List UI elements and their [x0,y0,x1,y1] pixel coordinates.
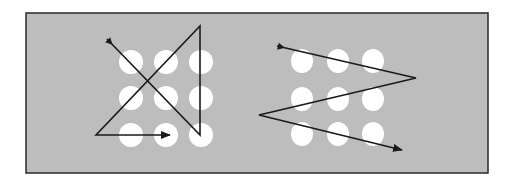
grid-dot [189,50,213,74]
diagram-canvas [0,0,514,184]
grid-dot [119,50,143,74]
grid-dot [154,86,178,110]
grid-dot [291,49,313,73]
grid-dot [189,86,213,110]
panel-frame [26,13,488,173]
